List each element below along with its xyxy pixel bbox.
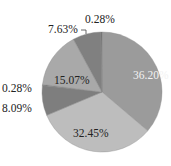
slice-label-4: 15.07% bbox=[54, 74, 90, 86]
slice-label-1: 32.45% bbox=[73, 127, 109, 139]
slice-label-2: 8.09% bbox=[2, 102, 32, 114]
pie-chart: 36.20%32.45%8.09%0.28%15.07%7.63%0.28% bbox=[0, 0, 171, 166]
slice-label-0: 36.20% bbox=[133, 69, 169, 81]
slice-label-3: 0.28% bbox=[2, 82, 32, 94]
slice-label-6: 0.28% bbox=[85, 13, 115, 25]
leader-line bbox=[81, 30, 86, 34]
slice-label-5: 7.63% bbox=[48, 23, 78, 35]
